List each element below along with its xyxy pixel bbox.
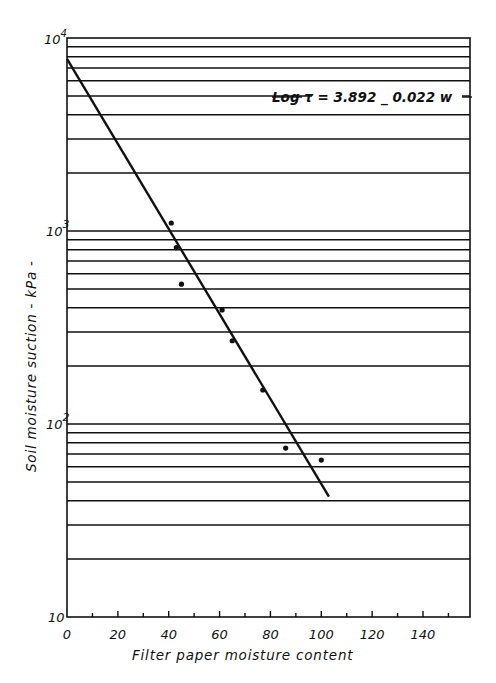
x-tick-label: 100	[309, 627, 334, 642]
plot-frame	[67, 38, 470, 617]
data-point	[179, 282, 184, 287]
y-tick-10-3: 103	[46, 218, 70, 239]
x-axis-title: Filter paper moisture content	[132, 647, 353, 663]
x-tick-label: 0	[63, 627, 71, 642]
y-tick-10: 10	[48, 610, 65, 625]
x-tick-labels: 020406080100120140	[63, 627, 436, 642]
x-axis-ticks	[92, 611, 448, 617]
x-tick-label: 80	[262, 627, 279, 642]
data-point	[169, 220, 174, 225]
data-points	[169, 89, 324, 463]
data-point	[283, 446, 288, 451]
data-point	[220, 307, 225, 312]
y-tick-10-2: 102	[46, 411, 70, 432]
gridlines	[67, 47, 470, 559]
data-point	[319, 458, 324, 463]
y-axis-title: Soil moisture suction - kPa -	[23, 260, 39, 472]
y-tick-10-4: 104	[44, 28, 67, 47]
equation-label: Log τ = 3.892 _ 0.022 w	[272, 89, 453, 106]
x-tick-label: 120	[360, 627, 385, 642]
x-tick-label: 40	[160, 627, 177, 642]
chart: Log τ = 3.892 _ 0.022 w 104 103 102 10 0…	[0, 0, 496, 683]
x-tick-label: 60	[211, 627, 228, 642]
fit-line	[67, 59, 329, 497]
x-tick-label: 20	[110, 627, 127, 642]
x-tick-label: 140	[411, 627, 436, 642]
